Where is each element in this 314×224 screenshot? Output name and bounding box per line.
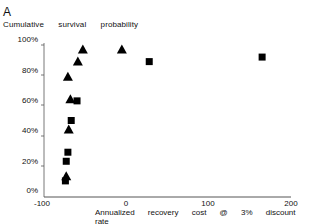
square-marker: [146, 58, 153, 65]
square-marker: [74, 97, 81, 104]
square-marker: [64, 149, 71, 156]
square-marker: [259, 54, 266, 61]
triangle-marker: [64, 125, 74, 134]
triangle-marker: [63, 72, 73, 81]
triangle-marker: [78, 45, 88, 54]
data-markers: [61, 45, 265, 185]
scatter-plot: [0, 0, 314, 224]
triangle-marker: [73, 57, 83, 66]
triangle-marker: [117, 45, 127, 54]
axes: [41, 43, 291, 197]
square-marker: [68, 117, 75, 124]
square-marker: [63, 158, 70, 165]
square-marker: [62, 177, 69, 184]
